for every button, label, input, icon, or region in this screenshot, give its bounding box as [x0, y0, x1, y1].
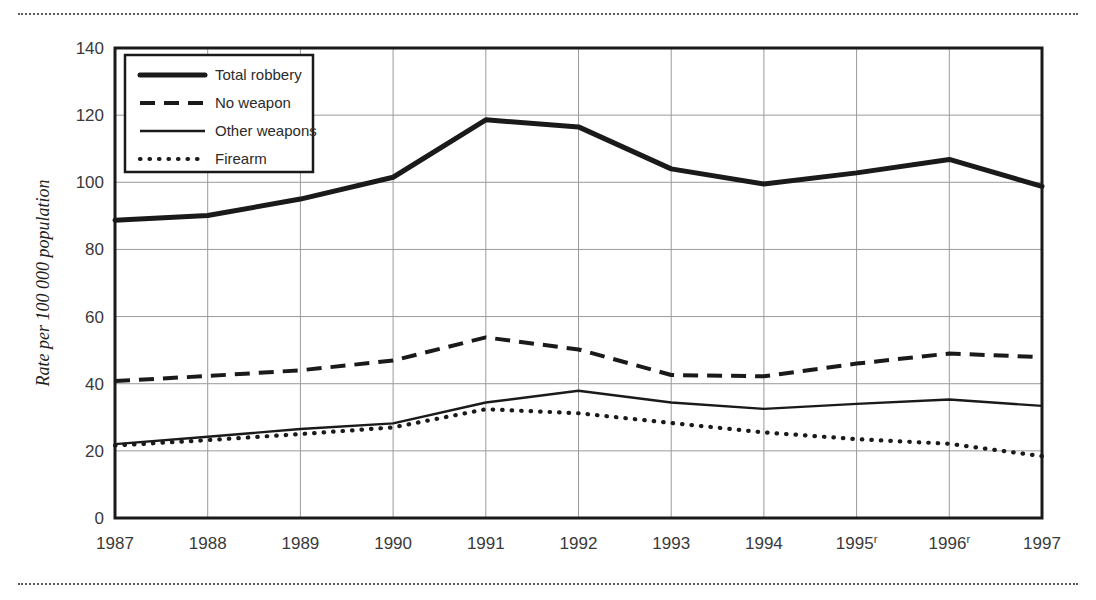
x-tick-superscript: r — [966, 533, 970, 545]
y-tick-label: 60 — [85, 308, 104, 327]
x-tick-label: 1993 — [652, 534, 690, 553]
x-tick-label: 1997 — [1023, 534, 1061, 553]
x-tick-label: 1987 — [96, 534, 134, 553]
legend-label: Firearm — [215, 150, 267, 167]
x-tick-label: 1988 — [189, 534, 227, 553]
chart-plot-area: 020406080100120140 198719881989199019911… — [0, 0, 1096, 600]
x-tick-label: 1996r — [929, 533, 971, 553]
figure-container: 020406080100120140 198719881989199019911… — [0, 0, 1096, 600]
x-tick-label: 1995r — [836, 533, 878, 553]
y-tick-label: 100 — [76, 173, 104, 192]
legend-label: No weapon — [215, 94, 291, 111]
x-tick-label: 1992 — [560, 534, 598, 553]
y-tick-label: 140 — [76, 39, 104, 58]
y-tick-label: 20 — [85, 442, 104, 461]
legend-label: Other weapons — [215, 122, 317, 139]
x-tick-superscript: r — [874, 533, 878, 545]
y-tick-label: 0 — [95, 509, 104, 528]
legend-label: Total robbery — [215, 66, 302, 83]
y-axis-title: Rate per 100 000 population — [33, 180, 53, 388]
x-tick-label: 1990 — [374, 534, 412, 553]
x-tick-label: 1991 — [467, 534, 505, 553]
chart-legend: Total robberyNo weaponOther weaponsFirea… — [125, 55, 317, 172]
y-tick-label: 40 — [85, 375, 104, 394]
y-tick-label: 120 — [76, 106, 104, 125]
line-chart: 020406080100120140 198719881989199019911… — [0, 0, 1096, 600]
x-tick-labels-group: 198719881989199019911992199319941995r199… — [96, 533, 1061, 553]
y-tick-label: 80 — [85, 240, 104, 259]
y-tick-labels-group: 020406080100120140 — [76, 39, 104, 528]
x-tick-label: 1994 — [745, 534, 783, 553]
x-tick-label: 1989 — [281, 534, 319, 553]
